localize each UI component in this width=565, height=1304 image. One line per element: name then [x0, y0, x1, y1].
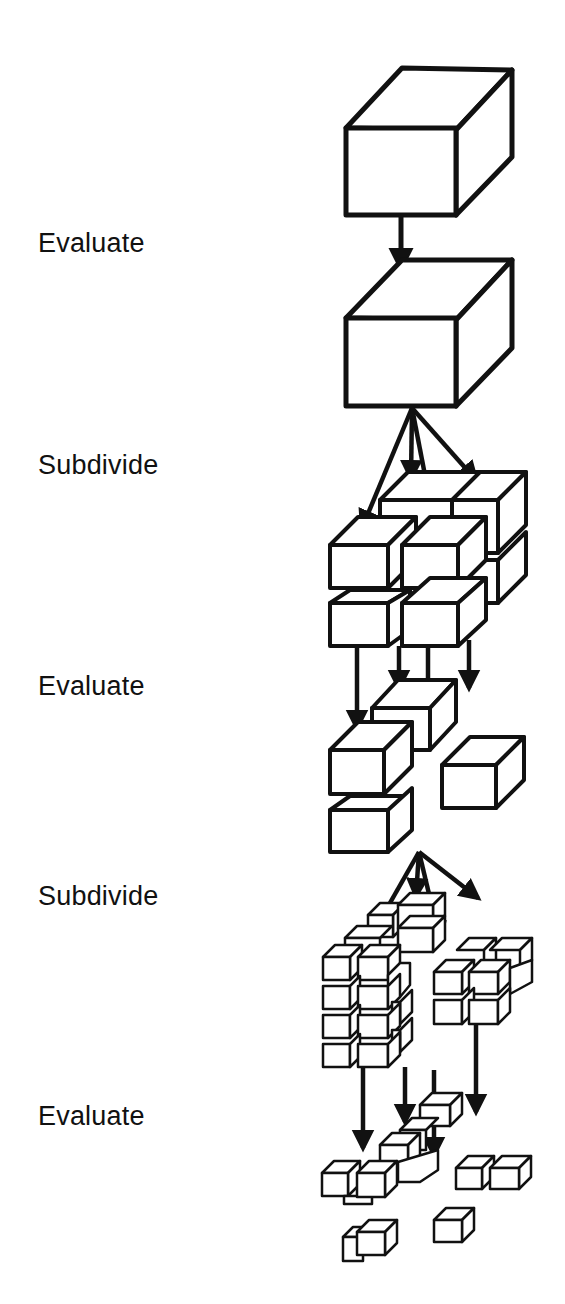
- octree-diagram: [0, 0, 565, 1304]
- cube-evaluated: [346, 260, 512, 406]
- children-level-2: [323, 893, 532, 1067]
- cube-root: [346, 68, 512, 215]
- children-level-1: [330, 472, 526, 646]
- surviving-cubes-2: [322, 1093, 531, 1261]
